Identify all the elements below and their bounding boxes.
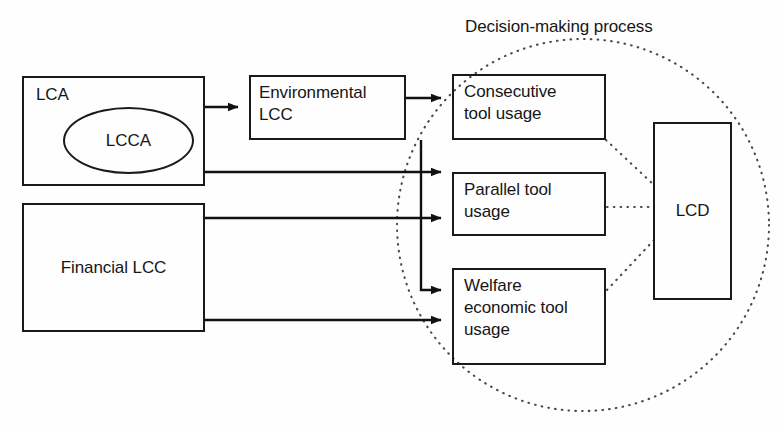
node-lca-label: LCA bbox=[36, 84, 156, 106]
node-consecutive-tool-usage-label: Consecutive tool usage bbox=[464, 81, 614, 125]
decision-making-process-label: Decision-making process bbox=[465, 16, 735, 38]
node-lcca[interactable]: LCCA bbox=[63, 107, 194, 174]
edge-environmental-lcc-to-welfare bbox=[421, 140, 441, 290]
node-parallel-tool-usage-label: Parallel tool usage bbox=[464, 179, 614, 223]
node-environmental-lcc-label: Environmental LCC bbox=[259, 82, 409, 126]
node-financial-lcc-label: Financial LCC bbox=[22, 203, 205, 332]
diagram-canvas: LCA LCCA Environmental LCC Financial LCC… bbox=[0, 0, 780, 429]
node-lcd-label: LCD bbox=[653, 122, 732, 300]
node-lcca-label: LCCA bbox=[106, 131, 151, 151]
node-welfare-economic-tool-usage-label: Welfare economic tool usage bbox=[464, 275, 616, 340]
